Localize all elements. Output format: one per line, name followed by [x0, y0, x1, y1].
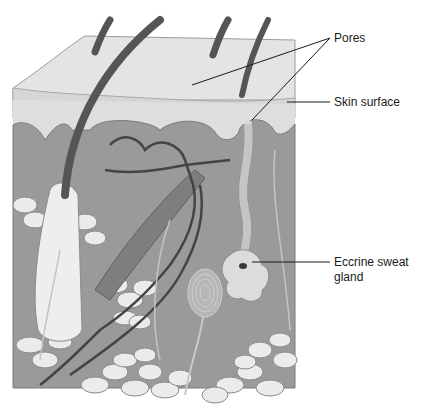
skin-illustration	[0, 0, 425, 418]
gland-lumen	[239, 263, 247, 269]
label-eccrine-sweat-gland-line1: Eccrine sweat	[334, 255, 409, 269]
skin-top-surface	[13, 36, 295, 100]
label-pores: Pores	[334, 31, 365, 45]
label-eccrine-sweat-gland-line2: gland	[334, 270, 363, 284]
label-skin-surface: Skin surface	[334, 95, 400, 109]
